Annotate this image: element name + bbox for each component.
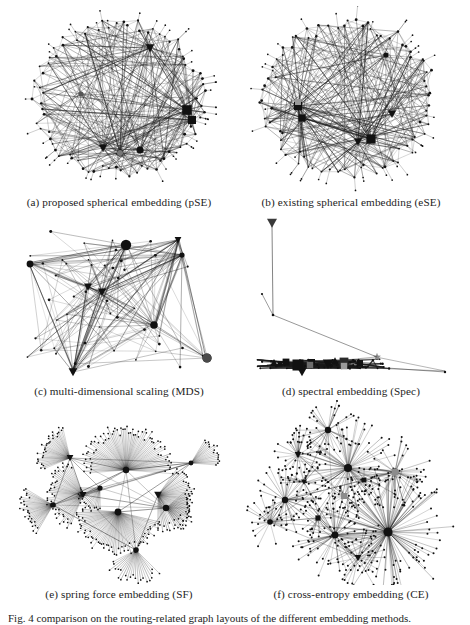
caption-panel-e: (e) spring force embedding (SF) [8, 588, 230, 601]
panel-sf [8, 400, 230, 585]
panel-spec [240, 212, 462, 380]
figure-caption: Fig. 4 comparison on the routing-related… [8, 612, 462, 625]
caption-panel-c: (c) multi-dimensional scaling (MDS) [8, 385, 230, 398]
plot-mds [8, 212, 230, 380]
caption-panel-b: (b) existing spherical embedding (eSE) [240, 196, 462, 209]
caption-panel-a: (a) proposed spherical embedding (pSE) [8, 196, 230, 209]
caption-panel-d: (d) spectral embedding (Spec) [240, 385, 462, 398]
plot-spec [240, 212, 462, 380]
plot-sf [8, 400, 230, 585]
panel-pse [8, 6, 230, 194]
plot-pse [8, 6, 230, 194]
panel-ce [240, 400, 462, 585]
caption-panel-f: (f) cross-entropy embedding (CE) [240, 588, 462, 601]
plot-ese [240, 6, 462, 194]
panel-mds [8, 212, 230, 380]
figure-graph-embedding-comparison: (a) proposed spherical embedding (pSE) (… [0, 0, 470, 625]
plot-ce [240, 400, 462, 585]
panel-ese [240, 6, 462, 194]
